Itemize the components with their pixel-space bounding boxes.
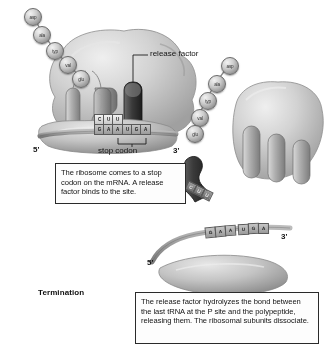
amino-acid-bead: glu	[72, 70, 90, 88]
five-prime-label-bound: 5'	[33, 145, 39, 154]
caption-box-top: The ribosome comes to a stop codon on th…	[55, 163, 186, 204]
stop-codon-label: stop codon	[98, 146, 137, 155]
diagram-canvas: asp ala typ val glu asp ala typ val glu …	[0, 0, 326, 353]
five-prime-label-free: 5'	[147, 258, 153, 267]
mrna-base-free: A	[225, 225, 237, 237]
mrna-base-free: A	[258, 223, 269, 234]
amino-acid-bead: glu	[186, 125, 204, 143]
amino-acid-bead: asp	[221, 57, 239, 75]
ribosome-small-subunit-free	[159, 255, 288, 295]
amino-acid-bead: ala	[33, 26, 51, 44]
amino-acid-bead: asp	[24, 8, 42, 26]
amino-acid-bead: typ	[199, 92, 217, 110]
amino-acid-bead: ala	[208, 75, 226, 93]
mrna-base-stop: A	[140, 124, 151, 135]
three-prime-label-free: 3'	[281, 232, 287, 241]
ribosome-large-subunit-free	[233, 82, 323, 184]
three-prime-label-bound: 3'	[173, 146, 179, 155]
release-factor-label: release factor	[150, 49, 198, 58]
stage-label-termination: Termination	[38, 288, 84, 297]
caption-box-bottom: The release factor hydrolyzes the bond b…	[135, 292, 319, 344]
